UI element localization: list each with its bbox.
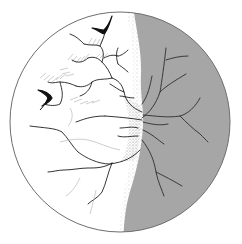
fundus-figure xyxy=(0,0,242,244)
fundus-drawing xyxy=(0,0,242,244)
